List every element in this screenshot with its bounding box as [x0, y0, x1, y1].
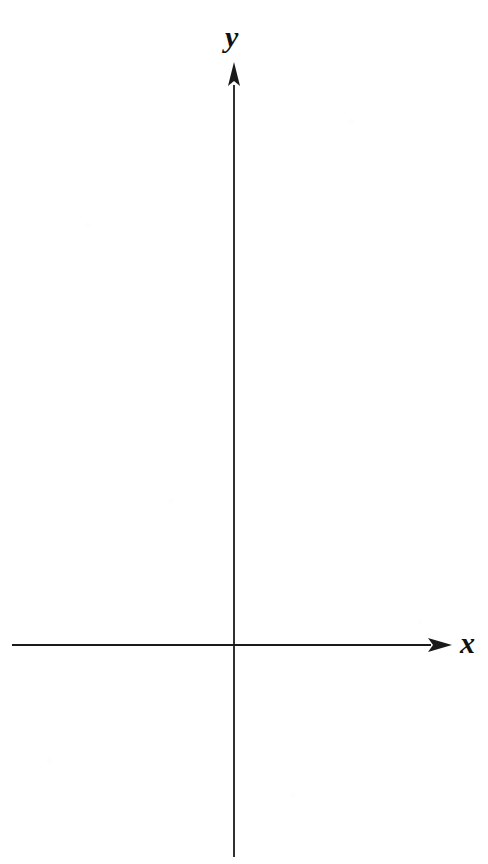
axes-svg [0, 0, 488, 864]
x-axis-arrowhead-icon [428, 638, 452, 652]
coordinate-plane-figure: y x [0, 0, 488, 864]
y-axis-label: y [225, 22, 238, 52]
x-axis-label: x [460, 628, 475, 658]
y-axis-arrowhead-icon [228, 62, 240, 86]
